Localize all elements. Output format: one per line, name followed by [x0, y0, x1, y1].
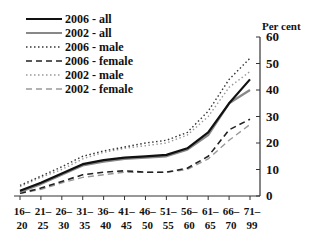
legend-item: 2006 - male	[26, 40, 133, 54]
legend-item: 2006 - all	[26, 12, 133, 26]
legend-item: 2002 - all	[26, 26, 133, 40]
legend-swatch-icon	[26, 56, 62, 66]
series-line	[20, 79, 250, 190]
legend-swatch-icon	[26, 14, 62, 24]
legend-swatch-icon	[26, 42, 62, 52]
legend-swatch-icon	[26, 70, 62, 80]
line-chart: 2006 - all2002 - all2006 - male2006 - fe…	[0, 0, 321, 240]
legend-label: 2006 - female	[65, 54, 133, 69]
legend-item: 2002 - male	[26, 68, 133, 82]
y-tick-label: 10	[266, 162, 279, 178]
x-tick-label: 71–99	[239, 204, 265, 232]
legend-item: 2006 - female	[26, 54, 133, 68]
legend-label: 2006 - all	[65, 12, 112, 27]
legend-swatch-icon	[26, 84, 62, 94]
legend-item: 2002 - female	[26, 82, 133, 96]
y-tick-label: 60	[266, 29, 279, 45]
legend-label: 2002 - all	[65, 26, 112, 41]
y-tick-label: 30	[266, 109, 279, 125]
legend-label: 2002 - female	[65, 82, 133, 97]
y-tick-label: 0	[266, 188, 273, 204]
legend-label: 2006 - male	[65, 40, 124, 55]
y-tick-label: 20	[266, 135, 279, 151]
y-tick-label: 40	[266, 82, 279, 98]
legend-label: 2002 - male	[65, 68, 124, 83]
legend-swatch-icon	[26, 28, 62, 38]
legend: 2006 - all2002 - all2006 - male2006 - fe…	[26, 12, 133, 96]
y-tick-label: 50	[266, 56, 279, 72]
